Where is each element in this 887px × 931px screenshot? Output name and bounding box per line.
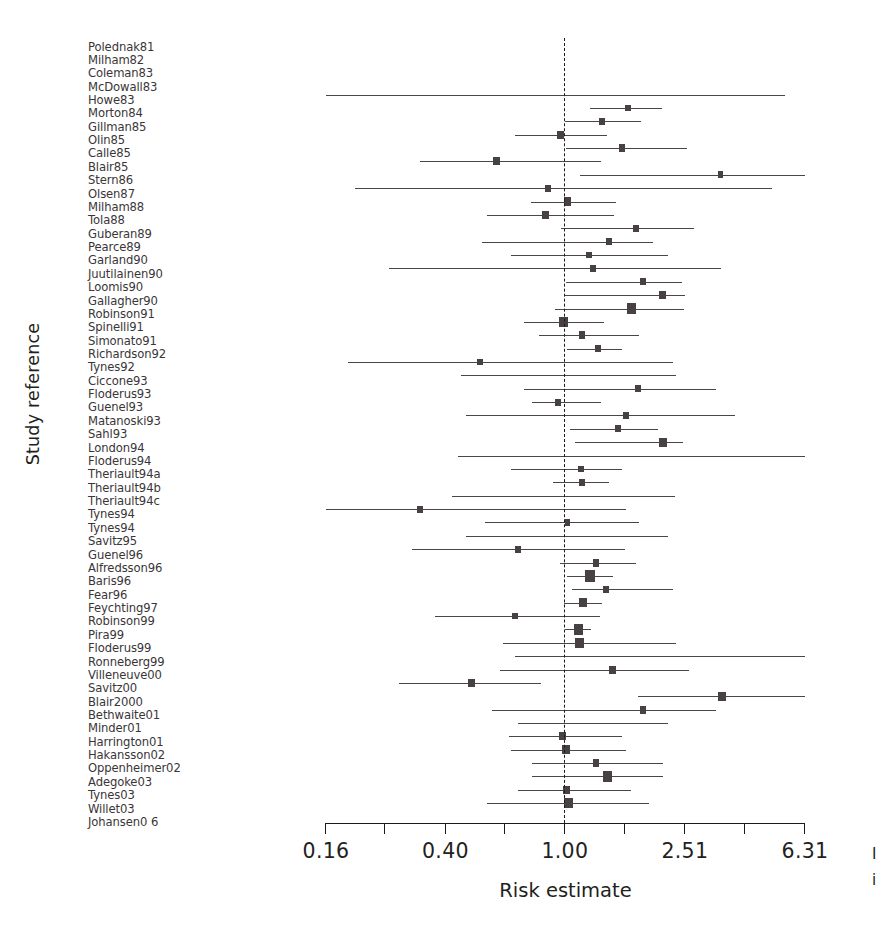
x-axis-tick xyxy=(504,823,505,834)
confidence-interval-line xyxy=(566,148,687,149)
point-estimate-marker xyxy=(603,771,612,781)
x-axis-tick xyxy=(445,823,446,834)
confidence-interval-line xyxy=(564,295,685,296)
x-axis-tick xyxy=(744,823,745,834)
point-estimate-marker xyxy=(578,466,584,473)
x-axis-tick-label: 1.00 xyxy=(541,839,588,863)
confidence-interval-line xyxy=(532,776,662,777)
point-estimate-marker xyxy=(603,586,609,593)
x-axis-tick xyxy=(624,823,625,834)
point-estimate-marker xyxy=(640,706,647,714)
x-axis-line xyxy=(326,823,805,824)
point-estimate-marker xyxy=(633,225,639,232)
point-estimate-marker xyxy=(468,679,475,687)
point-estimate-marker xyxy=(579,331,586,339)
point-estimate-marker xyxy=(640,278,646,285)
point-estimate-marker xyxy=(575,638,584,648)
confidence-interval-line xyxy=(348,362,673,363)
x-axis-tick-label: 6.31 xyxy=(782,839,829,863)
confidence-interval-line xyxy=(461,375,676,376)
confidence-interval-line xyxy=(580,175,805,176)
point-estimate-marker xyxy=(623,412,629,419)
confidence-interval-line xyxy=(572,589,673,590)
edge-fragment-line2: i xyxy=(872,872,876,889)
confidence-interval-line xyxy=(555,309,683,310)
point-estimate-marker xyxy=(493,157,500,165)
point-estimate-marker xyxy=(593,759,600,767)
confidence-interval-line xyxy=(515,656,805,657)
point-estimate-marker xyxy=(615,425,621,432)
x-axis-tick xyxy=(384,823,385,834)
confidence-interval-line xyxy=(326,95,785,96)
point-estimate-marker xyxy=(593,559,600,567)
confidence-interval-line xyxy=(518,723,667,724)
x-axis-title: Risk estimate xyxy=(499,879,631,902)
confidence-interval-line xyxy=(466,536,667,537)
x-axis-tick-label: 0.16 xyxy=(303,839,350,863)
x-axis-tick xyxy=(564,823,565,834)
point-estimate-marker xyxy=(542,211,549,219)
confidence-interval-line xyxy=(420,161,601,162)
confidence-interval-line xyxy=(561,228,694,229)
point-estimate-marker xyxy=(659,291,666,299)
point-estimate-marker xyxy=(590,265,596,272)
point-estimate-marker xyxy=(718,171,724,178)
edge-fragment-line1: I xyxy=(872,846,876,863)
confidence-interval-line xyxy=(575,442,683,443)
point-estimate-marker xyxy=(606,238,612,245)
confidence-interval-line xyxy=(566,282,682,283)
point-estimate-marker xyxy=(515,546,521,553)
confidence-interval-line xyxy=(532,402,601,403)
x-axis-tick xyxy=(804,823,805,834)
point-estimate-marker xyxy=(585,570,595,582)
point-estimate-marker xyxy=(595,345,601,352)
point-estimate-marker xyxy=(555,399,561,406)
confidence-interval-line xyxy=(518,790,631,791)
confidence-interval-line xyxy=(487,215,614,216)
forest-plot-figure: Study reference Polednak81Milham82Colema… xyxy=(0,0,887,931)
reference-line xyxy=(564,38,565,823)
confidence-interval-line xyxy=(435,616,600,617)
forest-rows-layer xyxy=(0,0,887,931)
confidence-interval-line xyxy=(389,268,720,269)
confidence-interval-line xyxy=(500,670,689,671)
point-estimate-marker xyxy=(635,385,641,392)
confidence-interval-line xyxy=(458,456,805,457)
confidence-interval-line xyxy=(466,415,735,416)
confidence-interval-line xyxy=(511,469,622,470)
confidence-interval-line xyxy=(492,710,717,711)
point-estimate-marker xyxy=(619,144,626,152)
point-estimate-marker xyxy=(477,359,483,366)
point-estimate-marker xyxy=(586,252,592,259)
x-axis-tick xyxy=(684,823,685,834)
point-estimate-marker xyxy=(579,598,587,607)
x-axis-tick-label: 0.40 xyxy=(422,839,469,863)
point-estimate-marker xyxy=(718,692,726,701)
point-estimate-marker xyxy=(625,105,631,112)
confidence-interval-line xyxy=(485,522,639,523)
point-estimate-marker xyxy=(659,438,667,447)
confidence-interval-line xyxy=(531,202,616,203)
point-estimate-marker xyxy=(512,613,518,620)
confidence-interval-line xyxy=(482,242,652,243)
confidence-interval-line xyxy=(326,509,626,510)
confidence-interval-line xyxy=(524,389,717,390)
point-estimate-marker xyxy=(627,303,636,313)
confidence-interval-line xyxy=(539,335,639,336)
confidence-interval-line xyxy=(503,643,676,644)
point-estimate-marker xyxy=(417,506,423,513)
point-estimate-marker xyxy=(599,118,605,125)
point-estimate-marker xyxy=(545,185,551,192)
point-estimate-marker xyxy=(565,519,571,526)
point-estimate-marker xyxy=(574,624,583,634)
x-axis-tick-label: 2.51 xyxy=(661,839,708,863)
point-estimate-marker xyxy=(609,666,616,674)
point-estimate-marker xyxy=(579,479,585,486)
x-axis-tick xyxy=(325,823,326,834)
point-estimate-marker xyxy=(564,798,573,808)
